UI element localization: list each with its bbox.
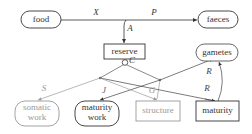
flow-label-x: X [92,7,99,17]
deb-diagram: food faeces X P A reserve C S J G R [0,0,252,134]
node-maturity-work: maturity work [75,101,119,126]
flow-label-r2: R [203,83,210,93]
node-structure-label: structure [142,105,174,115]
node-maturity-label: maturity [202,105,233,115]
branch-left-line [100,65,123,78]
node-maturity: maturity [196,101,239,121]
node-somatic-work-label-1: somatic [23,102,51,112]
flow-label-p: P [150,7,157,17]
node-maturity-work-label-2: work [88,112,107,122]
flow-a-arrow [124,20,126,43]
node-gametes: gametes [196,44,238,61]
mobilisation-node-c [122,60,128,66]
node-reserve: reserve [104,44,145,59]
node-maturity-work-label-1: maturity [82,102,113,112]
branch-right-line [127,65,160,80]
flow-label-g: G [149,85,156,95]
node-faeces-label: faeces [207,14,230,24]
flow-label-j: J [102,85,107,95]
flow-r-gametes-arrow [160,59,213,80]
flow-s-arrow [38,78,100,100]
node-somatic-work: somatic work [15,101,59,126]
flow-label-r1: R [205,66,212,76]
maturity-to-gametes-arrow [218,62,222,101]
node-gametes-label: gametes [202,47,232,57]
node-structure: structure [136,101,180,121]
flow-label-a: A [126,23,133,33]
flow-label-s: S [42,83,47,93]
node-somatic-work-label-2: work [28,112,47,122]
node-food: food [21,11,61,28]
flow-label-c: C [129,55,136,65]
node-reserve-label: reserve [112,46,138,56]
node-food-label: food [33,14,50,24]
node-faeces: faeces [198,11,238,28]
